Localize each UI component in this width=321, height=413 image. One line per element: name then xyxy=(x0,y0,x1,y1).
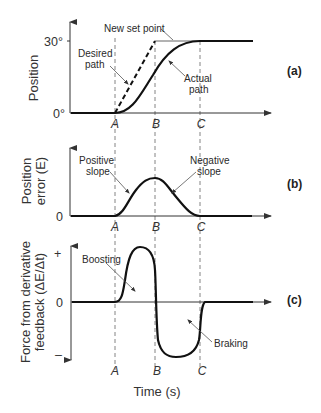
leader-negative-slope xyxy=(172,172,196,193)
y-axis-label-error-1: Position xyxy=(19,158,34,204)
marker-c-label-c: C xyxy=(198,364,207,378)
actual-path-label-1: Actual xyxy=(184,73,212,84)
marker-a-label: A xyxy=(110,117,119,131)
marker-b-label-c: B xyxy=(153,364,161,378)
y-axis-label-error-2: error (E) xyxy=(33,157,48,205)
y-tick-30: 30° xyxy=(44,35,63,49)
boosting-label: Boosting xyxy=(82,254,121,265)
marker-c-label-b: C xyxy=(197,220,206,234)
x-axis-label-time: Time (s) xyxy=(133,384,180,399)
y-tick-plus: + xyxy=(54,247,61,261)
y-tick-0-b: 0 xyxy=(56,210,63,224)
y-axis-label-position: Position xyxy=(26,55,41,101)
y-axis-label-force-1: Force from derivative xyxy=(18,241,33,363)
control-diagram: New set point Desired path Actual path 3… xyxy=(0,0,321,413)
negative-slope-label-1: Negative xyxy=(190,155,230,166)
panel-label-b: (b) xyxy=(287,177,302,191)
marker-a-label-c: A xyxy=(110,364,119,378)
y-tick-minus: – xyxy=(55,348,62,362)
panel-label-a: (a) xyxy=(287,64,302,78)
panel-b: Positive slope Negative slope 0 Position… xyxy=(19,148,302,234)
negative-slope-label-2: slope xyxy=(197,166,221,177)
marker-a-label-b: A xyxy=(110,220,119,234)
marker-b-label-b: B xyxy=(152,220,160,234)
leader-actual-path xyxy=(169,61,185,76)
y-tick-0: 0° xyxy=(53,107,65,121)
braking-label: Braking xyxy=(214,338,248,349)
panel-c: Boosting Braking + 0 – Force from deriva… xyxy=(18,241,302,399)
y-axis-label-force-2: feedback (ΔE/Δt) xyxy=(32,253,47,351)
y-tick-0-c: 0 xyxy=(56,296,63,310)
leader-desired-path xyxy=(110,66,128,84)
positive-slope-label-1: Positive xyxy=(79,155,114,166)
panel-a: New set point Desired path Actual path 3… xyxy=(26,22,302,131)
desired-path-label-2: path xyxy=(85,59,104,70)
marker-b-label: B xyxy=(152,117,160,131)
panel-label-c: (c) xyxy=(287,293,302,307)
leader-positive-slope xyxy=(110,172,129,193)
position-error-curve xyxy=(71,178,252,216)
marker-c-label: C xyxy=(197,117,206,131)
new-set-point-label: New set point xyxy=(104,23,165,34)
desired-path-label-1: Desired xyxy=(78,48,112,59)
positive-slope-label-2: slope xyxy=(86,166,110,177)
leader-boosting xyxy=(106,263,135,291)
actual-path-label-2: path xyxy=(189,84,208,95)
